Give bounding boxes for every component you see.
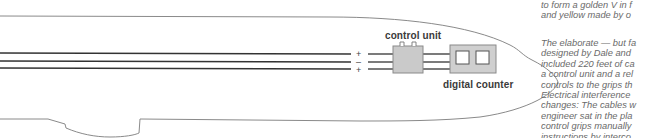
digital-counter-label: digital counter <box>443 79 513 90</box>
diagram-canvas: + – + control unit digital counter to fo… <box>0 0 662 138</box>
control-unit-prong-left <box>400 42 404 46</box>
caption-line: instructions by interco <box>541 132 662 138</box>
wire-bundle-middle <box>368 54 394 69</box>
caption-line: changes: The cables w <box>541 100 662 110</box>
control-unit-prong-right <box>412 42 416 46</box>
digital-counter-box <box>450 45 496 73</box>
caption-top-block: to form a golden V in f and yellow made … <box>541 0 662 21</box>
control-unit-label: control unit <box>385 30 441 41</box>
caption-line: controls to the grips th <box>541 80 662 90</box>
fuselage-bottom-outline <box>0 119 140 137</box>
caption-line: and yellow made by o <box>541 10 662 20</box>
caption-line: to form a golden V in f <box>541 0 662 10</box>
counter-display-right <box>476 51 489 64</box>
caption-bottom-block: The elaborate — but fa designed by Dale … <box>541 38 662 138</box>
control-unit-box <box>393 42 423 73</box>
caption-line: included 220 feet of ca <box>541 59 662 69</box>
wire-bundle-left <box>0 53 351 69</box>
polarity-sign-positive-bottom: + <box>356 66 361 74</box>
caption-line: The elaborate — but fa <box>541 38 662 48</box>
caption-line: control grips manually <box>541 121 662 131</box>
caption-line: designed by Dale and <box>541 48 662 58</box>
caption-line: engineer sat in the pla <box>541 111 662 121</box>
caption-line: a control unit and a rel <box>541 69 662 79</box>
counter-display-left <box>456 51 469 64</box>
caption-line: Electrical interference <box>541 90 662 100</box>
wire-bundle-right <box>423 54 450 69</box>
